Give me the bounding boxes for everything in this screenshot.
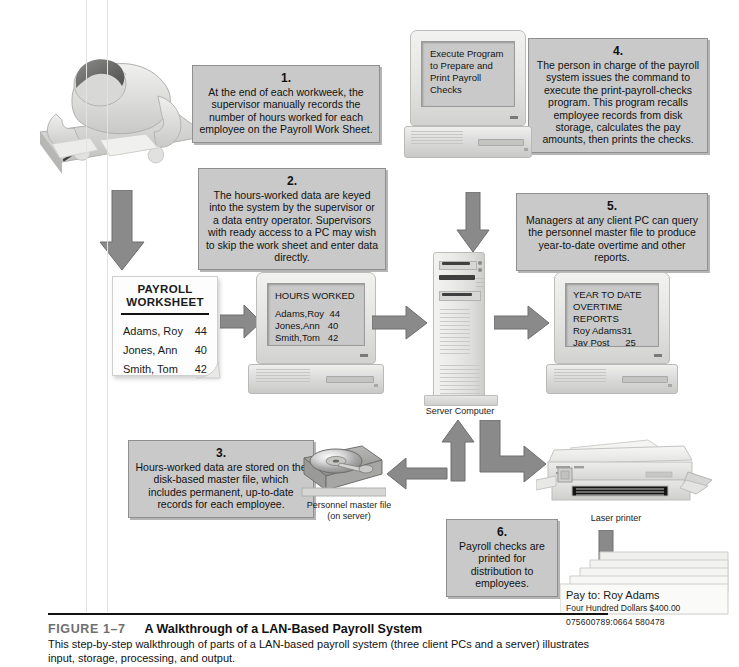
client-pc-hours-worked: HOURS WORKED Adams,Roy 44 Jones,Ann 40 S… xyxy=(248,272,384,392)
page-guide-line xyxy=(107,0,108,612)
worksheet-row-name: Adams, Roy xyxy=(123,322,183,341)
worksheet-title-line1: PAYROLL xyxy=(113,277,217,296)
screen-line: YEAR TO DATE xyxy=(573,289,651,301)
disk-label: Personnel master file (on server) xyxy=(288,500,410,521)
server-drive-face xyxy=(439,275,475,280)
supervisor-drawing xyxy=(38,44,208,184)
callout-step-2-text: The hours-worked data are keyed into the… xyxy=(206,189,378,263)
screen-line: Print Payroll xyxy=(430,72,506,84)
pc-vents xyxy=(256,369,310,384)
arrow-disk-to-server-up xyxy=(440,420,476,482)
pc-floppy-slot xyxy=(622,376,668,383)
worksheet-row-name: Jones, Ann xyxy=(123,341,177,360)
screen-ytd-reports: YEAR TO DATE OVERTIME REPORTS Roy Adams3… xyxy=(565,283,659,347)
server-side-vents xyxy=(476,278,484,290)
callout-step-3-number: 3. xyxy=(135,446,307,460)
server-lower-grill xyxy=(440,365,480,397)
monitor-power-led xyxy=(360,354,368,357)
hard-disk-drive xyxy=(300,444,386,500)
pc-eject-button xyxy=(524,148,528,151)
callout-step-2: 2. The hours-worked data are keyed into … xyxy=(198,168,386,270)
screen-line: Execute Program xyxy=(430,48,506,60)
callout-step-1-text: At the end of each workweek, the supervi… xyxy=(199,86,372,135)
worksheet-title-line2: WORKSHEET xyxy=(113,296,217,309)
callout-step-2-number: 2. xyxy=(205,174,379,188)
callout-step-3-text: Hours-worked data are stored on the disk… xyxy=(135,461,306,510)
figure-number: FIGURE 1–7 xyxy=(48,622,126,636)
check-pay-to: Pay to: Roy Adams xyxy=(566,588,736,602)
client-pc-execute-program: Execute Program to Prepare and Print Pay… xyxy=(404,30,532,160)
screen-line: Smith,Tom 42 xyxy=(275,332,357,344)
pc-eject-button xyxy=(668,384,672,387)
client-pc-ytd-reports: YEAR TO DATE OVERTIME REPORTS Roy Adams3… xyxy=(546,272,678,392)
screen-line: REPORTS xyxy=(573,313,651,325)
screen-line: OVERTIME xyxy=(573,301,651,313)
laser-printer xyxy=(536,436,712,512)
hard-disk-drive-graphic xyxy=(300,444,386,500)
laser-printer-graphic xyxy=(536,436,712,512)
arrow-server-to-disk xyxy=(386,458,448,490)
pc-vents xyxy=(411,131,463,146)
server-base-stand xyxy=(424,395,498,406)
server-label-text: Server Computer xyxy=(426,406,495,416)
figure-title: A Walkthrough of a LAN-Based Payroll Sys… xyxy=(144,622,422,636)
screen-line: Adams,Roy 44 xyxy=(275,308,357,320)
server-drive-face xyxy=(442,293,472,296)
printer-label-text: Laser printer xyxy=(591,513,642,523)
disk-label-line1: Personnel master file xyxy=(288,500,410,511)
callout-step-6: 6. Payroll checks are printed for distri… xyxy=(446,519,558,597)
supervisor-illustration xyxy=(38,44,208,184)
server-front-grill xyxy=(440,309,470,357)
worksheet-row: Jones, Ann 40 xyxy=(123,341,207,360)
callout-step-4-text: The person in charge of the payroll syst… xyxy=(537,59,699,145)
pc-vents xyxy=(554,369,606,384)
screen-execute-program: Execute Program to Prepare and Print Pay… xyxy=(421,41,515,107)
arrow-person-to-worksheet xyxy=(98,190,146,272)
figure-body-text: This step-by-step walkthrough of parts o… xyxy=(48,638,608,666)
caption-rule xyxy=(48,613,608,615)
callout-step-6-text: Payroll checks are printed for distribut… xyxy=(459,540,545,589)
worksheet-row-name: Smith, Tom xyxy=(123,360,178,379)
arrow-pc1-to-server xyxy=(372,306,428,340)
server-label: Server Computer xyxy=(400,406,520,417)
server-activity-led xyxy=(478,268,482,272)
pc-eject-button xyxy=(374,384,378,387)
callout-step-1: 1. At the end of each workweek, the supe… xyxy=(192,65,380,143)
monitor-power-led xyxy=(510,116,518,119)
screen-hours-worked: HOURS WORKED Adams,Roy 44 Jones,Ann 40 S… xyxy=(267,283,365,346)
arrow-server-to-pc3 xyxy=(494,306,550,340)
worksheet-row: Smith, Tom 42 xyxy=(123,360,207,379)
screen-title: HOURS WORKED xyxy=(275,290,357,302)
screen-line: Checks xyxy=(430,84,506,96)
callout-step-5-text: Managers at any client PC can query the … xyxy=(526,214,698,263)
pc-floppy-slot xyxy=(326,376,374,383)
callout-step-5: 5. Managers at any client PC can query t… xyxy=(516,193,708,271)
screen-line: to Prepare and xyxy=(430,60,506,72)
page-guide-line xyxy=(86,0,87,612)
printer-label: Laser printer xyxy=(556,513,676,524)
screen-line: Jones,Ann 40 xyxy=(275,320,357,332)
pc-floppy-slot xyxy=(478,139,524,146)
callout-step-5-number: 5. xyxy=(523,199,701,213)
worksheet-row: Adams, Roy 44 xyxy=(123,322,207,341)
callout-step-3: 3. Hours-worked data are stored on the d… xyxy=(128,440,314,518)
worksheet-corner-curl xyxy=(196,360,222,384)
server-drive-face xyxy=(442,262,470,265)
callout-step-1-number: 1. xyxy=(199,71,373,85)
arrow-executepc-to-server xyxy=(456,192,490,254)
worksheet-row-hours: 40 xyxy=(195,341,207,360)
screen-line: Jay Post 25 xyxy=(573,337,651,347)
disk-label-line2: (on server) xyxy=(288,511,410,522)
monitor-power-led xyxy=(654,354,662,357)
callout-step-6-number: 6. xyxy=(453,525,551,539)
callout-step-4-number: 4. xyxy=(535,44,701,58)
server-power-led xyxy=(478,261,482,265)
worksheet-row-hours: 44 xyxy=(195,322,207,341)
screen-line: Roy Adams31 xyxy=(573,325,651,337)
server-computer-tower xyxy=(433,252,485,398)
callout-step-4: 4. The person in charge of the payroll s… xyxy=(528,38,708,153)
figure-caption: FIGURE 1–7 A Walkthrough of a LAN-Based … xyxy=(48,613,608,666)
